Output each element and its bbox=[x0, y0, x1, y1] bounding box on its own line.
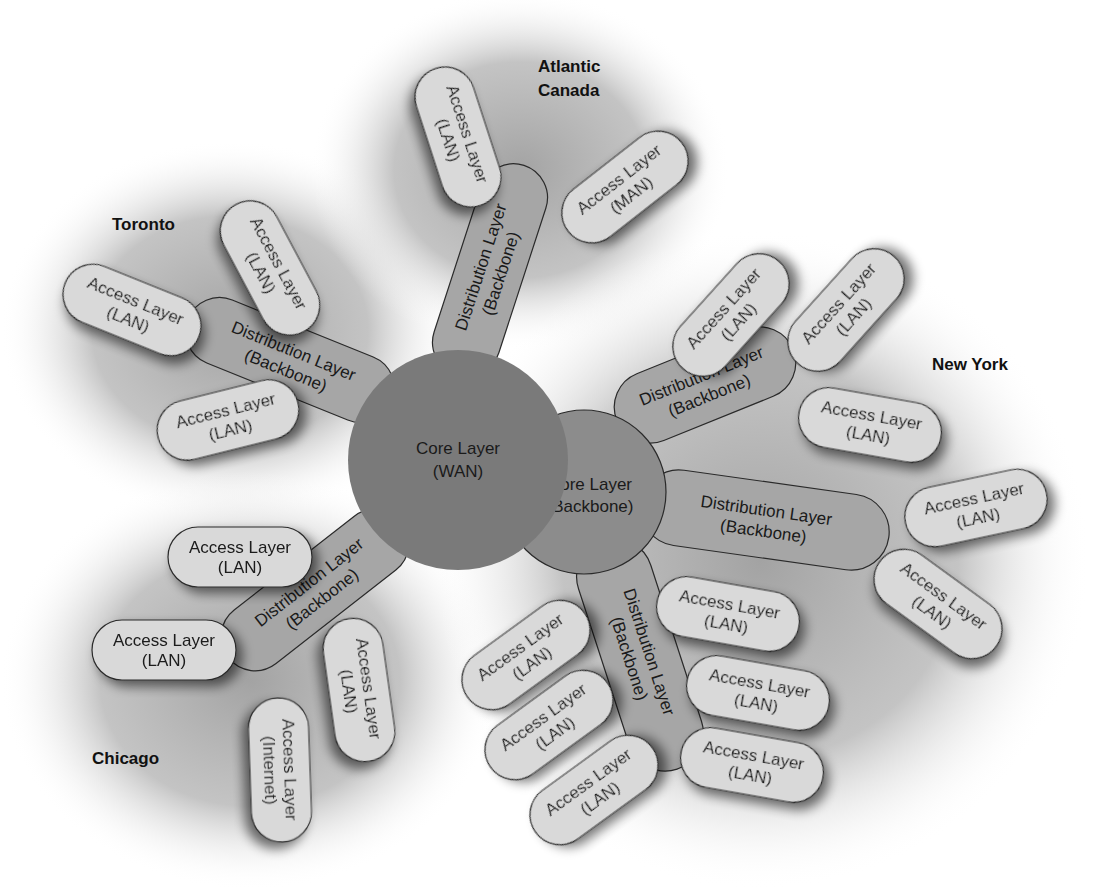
access-label: Access Layer bbox=[278, 718, 301, 821]
newyork-label: New York bbox=[932, 355, 1008, 374]
chicago-label: Chicago bbox=[92, 749, 159, 768]
access-label: Access Layer bbox=[113, 631, 215, 650]
atlantic-label-line2: Canada bbox=[538, 81, 600, 100]
toronto-label: Toronto bbox=[112, 215, 175, 234]
core-wan[interactable]: Core Layer (WAN) bbox=[348, 350, 568, 570]
chicago-access-3[interactable]: Access Layer (Internet) bbox=[248, 697, 313, 843]
core-wan-line2: (WAN) bbox=[433, 462, 483, 481]
network-diagram: Distribution Layer (Backbone) Access Lay… bbox=[0, 0, 1098, 894]
core-wan-line1: Core Layer bbox=[416, 439, 500, 458]
access-type: (LAN) bbox=[142, 651, 186, 670]
atlantic-label-line1: Atlantic bbox=[538, 57, 600, 76]
chicago-access-2[interactable]: Access Layer (LAN) bbox=[92, 620, 236, 680]
access-label: Access Layer bbox=[189, 538, 291, 557]
chicago-access-1[interactable]: Access Layer (LAN) bbox=[168, 527, 312, 587]
access-type: (Internet) bbox=[259, 736, 280, 806]
access-type: (LAN) bbox=[218, 558, 262, 577]
